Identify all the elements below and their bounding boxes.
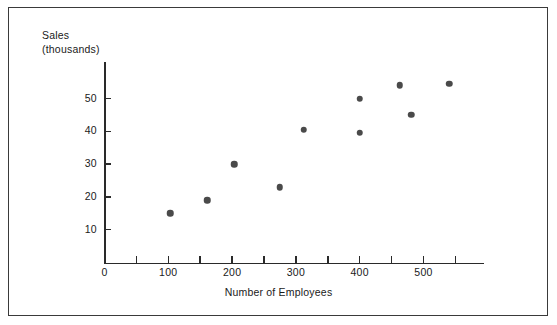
- data-point: [167, 210, 174, 217]
- y-tick-mark: [104, 163, 111, 165]
- x-tick-label: 200: [212, 266, 252, 278]
- data-point: [356, 130, 363, 137]
- y-tick-label: 10: [57, 223, 97, 235]
- x-tick-mark: [231, 256, 233, 263]
- x-tick-mark: [168, 256, 170, 263]
- y-tick-label: 30: [57, 157, 97, 169]
- x-tick-label: 500: [404, 266, 444, 278]
- x-tick-label: 100: [148, 266, 188, 278]
- x-tick-mark: [263, 256, 265, 263]
- x-tick-label: 400: [340, 266, 380, 278]
- scatter-plot-figure: 1020304050 0100200300400500 Sales (thous…: [0, 0, 557, 325]
- x-tick-mark: [455, 256, 457, 263]
- x-tick-mark: [359, 256, 361, 263]
- x-axis-line: [104, 263, 484, 265]
- y-tick-label: 50: [57, 92, 97, 104]
- x-tick-mark: [391, 256, 393, 263]
- y-tick-label: 40: [57, 124, 97, 136]
- data-point: [204, 197, 211, 204]
- x-tick-label: 300: [276, 266, 316, 278]
- data-point: [277, 184, 284, 191]
- y-axis-title-line1: Sales: [42, 29, 69, 41]
- data-point: [300, 126, 307, 133]
- x-tick-mark: [423, 256, 425, 263]
- y-axis-title: Sales (thousands): [42, 28, 100, 56]
- x-tick-mark: [199, 256, 201, 263]
- y-tick-mark: [104, 196, 111, 198]
- data-point: [408, 112, 415, 119]
- y-tick-mark: [104, 131, 111, 133]
- y-tick-mark: [104, 229, 111, 231]
- y-tick-mark: [104, 98, 111, 100]
- x-tick-mark: [295, 256, 297, 263]
- x-tick-label: 0: [85, 266, 125, 278]
- data-point: [397, 82, 404, 89]
- x-tick-mark: [136, 256, 138, 263]
- data-point: [446, 80, 453, 87]
- x-axis-title: Number of Employees: [0, 286, 557, 298]
- x-tick-mark: [327, 256, 329, 263]
- data-point: [356, 95, 363, 102]
- plot-area: 1020304050 0100200300400500 Sales (thous…: [0, 0, 557, 325]
- y-axis-title-line2: (thousands): [42, 42, 100, 56]
- data-point: [231, 161, 238, 168]
- y-tick-label: 20: [57, 190, 97, 202]
